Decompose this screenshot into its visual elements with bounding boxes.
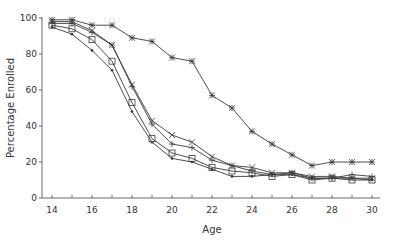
plus-marker-icon — [89, 29, 95, 35]
dot-marker-icon — [151, 141, 154, 144]
series-line — [52, 22, 372, 179]
line-chart: 020406080100141618202224262830 Age Perce… — [0, 0, 395, 245]
dot-marker-icon — [311, 177, 314, 180]
dot-marker-icon — [191, 161, 194, 164]
x-tick-label: 16 — [86, 205, 98, 215]
asterisk-marker-icon — [249, 128, 255, 134]
asterisk-marker-icon — [309, 163, 315, 169]
dot-marker-icon — [131, 110, 134, 113]
dot-marker-icon — [371, 179, 374, 182]
x-tick-label: 14 — [46, 205, 58, 215]
dot-marker-icon — [211, 168, 214, 171]
x-tick-label: 22 — [206, 205, 217, 215]
dot-marker-icon — [171, 157, 174, 160]
dot-marker-icon — [111, 69, 114, 72]
asterisk-marker-icon — [229, 105, 235, 111]
dot-marker-icon — [51, 26, 54, 29]
asterisk-marker-icon — [289, 152, 295, 158]
series-cross — [49, 19, 375, 182]
x-tick-label: 24 — [246, 205, 258, 215]
x-marker-icon — [169, 132, 175, 138]
dot-marker-icon — [91, 49, 94, 52]
x-axis-title: Age — [202, 224, 221, 235]
asterisk-marker-icon — [349, 159, 355, 165]
x-marker-icon — [189, 139, 195, 145]
x-tick-label: 26 — [286, 205, 298, 215]
y-tick-label: 100 — [20, 13, 37, 23]
asterisk-marker-icon — [329, 159, 335, 165]
plus-marker-icon — [189, 145, 195, 151]
asterisk-marker-icon — [369, 159, 375, 165]
asterisk-marker-icon — [109, 22, 115, 28]
asterisk-marker-icon — [129, 35, 135, 41]
dot-marker-icon — [351, 177, 354, 180]
x-tick-label: 18 — [126, 205, 138, 215]
asterisk-marker-icon — [269, 141, 275, 147]
dot-marker-icon — [251, 175, 254, 178]
dot-marker-icon — [271, 173, 274, 176]
dot-marker-icon — [231, 175, 234, 178]
y-tick-label: 60 — [26, 85, 38, 95]
dot-marker-icon — [71, 33, 74, 36]
asterisk-marker-icon — [209, 92, 215, 98]
dot-marker-icon — [291, 173, 294, 176]
asterisk-marker-icon — [149, 38, 155, 44]
plus-marker-icon — [209, 157, 215, 163]
asterisk-marker-icon — [169, 55, 175, 61]
asterisk-marker-icon — [89, 22, 95, 28]
series-asterisk — [49, 17, 375, 169]
asterisk-marker-icon — [189, 58, 195, 64]
x-tick-label: 28 — [326, 205, 338, 215]
axes: 020406080100141618202224262830 — [20, 13, 380, 215]
y-tick-label: 40 — [26, 121, 38, 131]
y-tick-label: 0 — [31, 193, 37, 203]
y-tick-label: 20 — [26, 157, 38, 167]
plot-area — [49, 17, 375, 183]
y-tick-label: 80 — [26, 49, 38, 59]
y-axis-title: Percentage Enrolled — [5, 58, 16, 158]
series-line — [52, 23, 372, 178]
x-tick-label: 20 — [166, 205, 178, 215]
dot-marker-icon — [331, 177, 334, 180]
x-tick-label: 30 — [366, 205, 378, 215]
